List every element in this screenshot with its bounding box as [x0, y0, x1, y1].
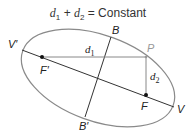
- label-f-prime: F′: [40, 64, 50, 76]
- label-d2: d2: [150, 70, 160, 85]
- label-v: V: [177, 103, 186, 115]
- ellipse-diagram: V′ V B B′ F′ F P d1 d2: [0, 0, 196, 137]
- label-f: F: [141, 100, 149, 112]
- focus-f-point: [144, 93, 148, 97]
- label-v-prime: V′: [8, 38, 18, 50]
- label-b-prime: B′: [79, 120, 89, 132]
- focus-f-prime-point: [40, 55, 44, 59]
- ellipse: [8, 10, 188, 137]
- label-p: P: [147, 42, 155, 54]
- point-p: [145, 56, 148, 59]
- label-b: B: [112, 24, 119, 36]
- label-d1: d1: [85, 43, 95, 58]
